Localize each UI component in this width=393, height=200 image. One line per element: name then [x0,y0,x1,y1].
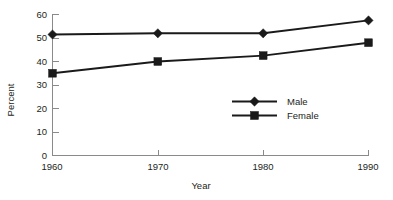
data-point-diamond [153,29,162,38]
series-male [48,16,373,39]
legend-label-male: Male [287,96,308,107]
series-female [49,39,373,77]
y-tick-label-60: 60 [36,9,47,20]
legend-item-female[interactable]: Female [232,110,319,121]
legend: Male Female [232,96,319,121]
data-point-square [365,39,373,47]
series-female-line [53,43,369,74]
data-point-square [49,69,57,77]
y-tick-label-40: 40 [36,56,47,67]
legend-label-female: Female [287,110,319,121]
x-tick-label-1980: 1980 [252,161,273,172]
data-point-square [154,58,162,66]
diamond-icon [250,97,259,106]
x-axis-title: Year [191,180,210,191]
legend-item-male[interactable]: Male [232,96,308,107]
series-male-line [53,20,369,34]
y-tick-label-0: 0 [42,150,47,161]
series-male-markers [48,16,373,39]
square-icon [251,112,259,120]
line-chart-figure: 60 50 40 30 20 10 0 Percent 1960 1970 19… [0,0,393,200]
x-tick-label-1960: 1960 [41,161,62,172]
y-tick-label-10: 10 [36,126,47,137]
y-tick-label-20: 20 [36,103,47,114]
x-axis: 1960 1970 1980 1990 Year [41,150,378,192]
chart-plot-area: 60 50 40 30 20 10 0 Percent 1960 1970 19… [0,0,393,200]
x-tick-label-1990: 1990 [357,161,378,172]
data-point-square [259,52,267,60]
data-point-diamond [259,29,268,38]
y-axis-title: Percent [5,83,16,116]
x-tick-label-1970: 1970 [147,161,168,172]
data-point-diamond [364,16,373,25]
y-tick-label-30: 30 [36,79,47,90]
y-tick-label-50: 50 [36,32,47,43]
